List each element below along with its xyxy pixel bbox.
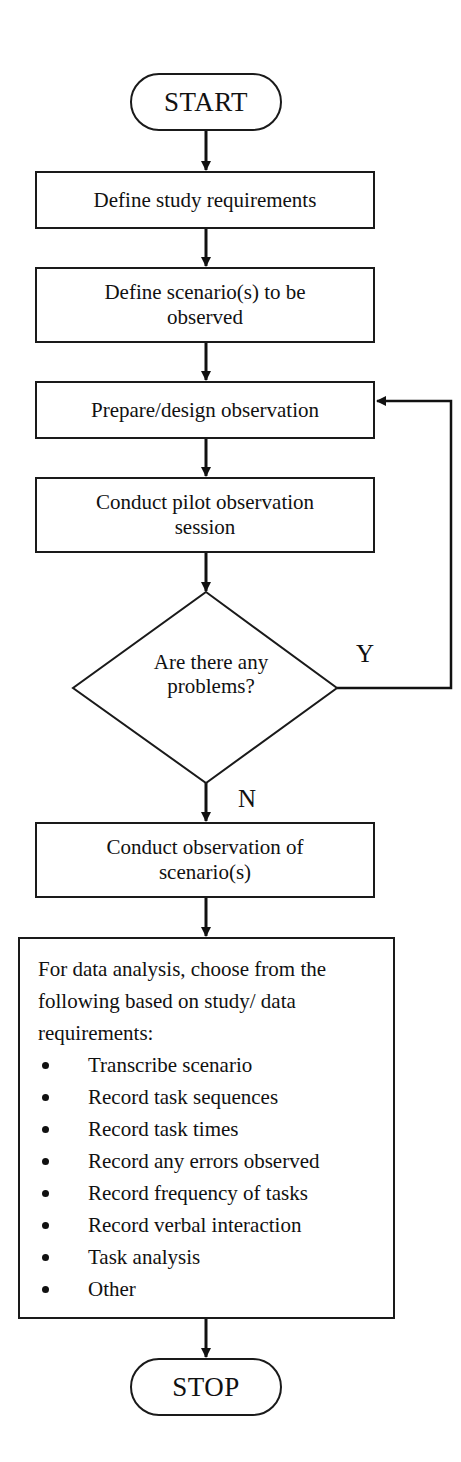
bullet-icon	[42, 1254, 49, 1261]
stop-terminal: STOP	[130, 1358, 282, 1416]
analysis-option: Record verbal interaction	[38, 1209, 379, 1241]
decision-question: Are there any problems?	[136, 650, 286, 698]
bullet-icon	[42, 1158, 49, 1165]
analysis-option: Record frequency of tasks	[38, 1177, 379, 1209]
step-prepare-design-observation: Prepare/design observation	[35, 381, 375, 439]
analysis-option: Record task times	[38, 1113, 379, 1145]
start-terminal: START	[130, 73, 282, 131]
step-label: Conduct pilot observation session	[87, 490, 323, 540]
analysis-option: Record task sequences	[38, 1081, 379, 1113]
analysis-options-list: Transcribe scenario Record task sequence…	[38, 1049, 379, 1305]
step-conduct-pilot-session: Conduct pilot observation session	[35, 477, 375, 553]
step-conduct-observation: Conduct observation of scenario(s)	[35, 822, 375, 898]
step-define-study-requirements: Define study requirements	[35, 171, 375, 229]
analysis-intro: For data analysis, choose from the follo…	[38, 953, 368, 1049]
bullet-icon	[42, 1062, 49, 1069]
analysis-option: Other	[38, 1273, 379, 1305]
step-label: Define study requirements	[94, 188, 317, 213]
data-analysis-options-box: For data analysis, choose from the follo…	[18, 937, 395, 1319]
step-label: Prepare/design observation	[91, 398, 319, 423]
bullet-icon	[42, 1222, 49, 1229]
step-label: Conduct observation of scenario(s)	[97, 835, 313, 885]
decision-no-label: N	[238, 785, 256, 813]
step-define-scenarios: Define scenario(s) to be observed	[35, 267, 375, 343]
step-label: Define scenario(s) to be observed	[97, 280, 313, 330]
analysis-option: Task analysis	[38, 1241, 379, 1273]
bullet-icon	[42, 1190, 49, 1197]
decision-yes-label: Y	[356, 640, 374, 668]
bullet-icon	[42, 1126, 49, 1133]
bullet-icon	[42, 1094, 49, 1101]
analysis-option: Record any errors observed	[38, 1145, 379, 1177]
analysis-option: Transcribe scenario	[38, 1049, 379, 1081]
stop-label: STOP	[172, 1375, 240, 1400]
start-label: START	[164, 90, 248, 115]
bullet-icon	[42, 1286, 49, 1293]
